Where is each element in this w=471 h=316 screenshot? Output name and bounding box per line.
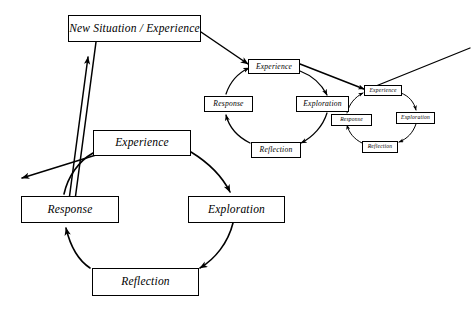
diagram-connectors-layer — [0, 0, 471, 316]
arc-large-exploration-to-reflection — [200, 223, 233, 268]
arc-medium-response-to-experience — [226, 68, 249, 94]
medium-cycle-node-reflection[interactable]: Reflection — [251, 142, 301, 158]
arc-large-experience-to-exploration — [191, 152, 230, 192]
arc-small-reflection-to-response — [347, 125, 362, 143]
arc-medium-experience-to-exploration — [300, 71, 327, 95]
small-cycle-node-experience[interactable]: Experience — [364, 85, 402, 96]
node-new-situation-experience[interactable]: New Situation / Experience — [68, 15, 201, 42]
arc-medium-reflection-to-response — [226, 115, 250, 143]
arc-large-reflection-to-response — [66, 228, 90, 268]
node-label: Experience — [115, 137, 169, 149]
medium-cycle-node-exploration[interactable]: Exploration — [296, 96, 349, 112]
node-label: Exploration — [208, 204, 265, 216]
large-cycle-node-experience[interactable]: Experience — [93, 130, 191, 156]
node-label: New Situation / Experience — [69, 23, 200, 35]
node-label: Reflection — [368, 144, 393, 150]
connector-response-to-title — [75, 42, 96, 200]
arc-small-response-to-experience — [347, 93, 363, 113]
connector-outgoing-to-left — [22, 155, 96, 178]
small-cycle-node-reflection[interactable]: Reflection — [362, 141, 398, 153]
diagram-canvas: New Situation / Experience Experience Ex… — [0, 0, 471, 316]
node-label: Exploration — [303, 100, 341, 108]
connector-incoming-from-right — [366, 48, 470, 90]
medium-cycle-node-response[interactable]: Response — [204, 96, 253, 112]
medium-cycle-node-experience[interactable]: Experience — [248, 59, 300, 74]
node-label: Exploration — [401, 115, 430, 121]
node-label: Experience — [256, 63, 292, 71]
connector-medium-to-small-experience — [300, 64, 364, 89]
node-label: Response — [340, 117, 363, 123]
small-cycle-node-exploration[interactable]: Exploration — [396, 112, 435, 124]
connector-title-to-medium-experience — [201, 32, 248, 64]
large-cycle-node-response[interactable]: Response — [21, 196, 119, 223]
arc-small-exploration-to-reflection — [399, 124, 416, 142]
small-cycle-node-response[interactable]: Response — [331, 114, 372, 126]
node-label: Reflection — [121, 276, 170, 288]
node-label: Reflection — [260, 146, 293, 154]
node-label: Response — [213, 100, 243, 108]
arc-medium-exploration-to-reflection — [301, 113, 327, 143]
large-cycle-node-exploration[interactable]: Exploration — [188, 196, 285, 223]
node-label: Response — [47, 204, 92, 216]
arc-small-experience-to-exploration — [401, 93, 416, 110]
node-label: Experience — [369, 88, 396, 94]
large-cycle-node-reflection[interactable]: Reflection — [92, 268, 199, 296]
